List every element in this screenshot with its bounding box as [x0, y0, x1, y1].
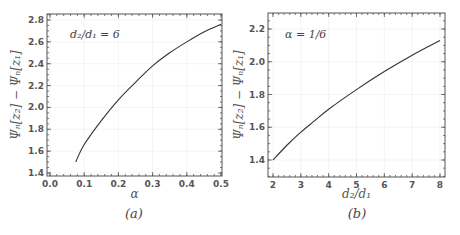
chart-panel-b: 23456781.41.61.82.02.2α = 1/6d₂/d₁Ψₙ[z₂]… [0, 0, 230, 235]
x-axis-label: d₂/d₁ [342, 187, 371, 201]
y-tick-label: 1.6 [249, 122, 265, 132]
y-tick-label: 2.0 [249, 57, 265, 67]
x-tick-label: 6 [381, 180, 387, 190]
x-tick-label: 3 [298, 180, 304, 190]
y-tick-label: 2.2 [249, 24, 265, 34]
y-axis-label: Ψₙ[z₂] − Ψₙ[z₁] [232, 50, 246, 140]
y-tick-label: 1.4 [249, 155, 265, 165]
y-tick-label: 1.8 [249, 90, 265, 100]
x-tick-label: 7 [409, 180, 415, 190]
x-tick-label: 2 [270, 180, 276, 190]
x-tick-label: 8 [437, 180, 443, 190]
subfigure-caption: (b) [348, 206, 366, 221]
x-tick-label: 4 [326, 180, 332, 190]
parameter-annotation: α = 1/6 [285, 28, 326, 41]
line-chart-b: 23456781.41.61.82.02.2α = 1/6d₂/d₁Ψₙ[z₂]… [0, 0, 460, 235]
